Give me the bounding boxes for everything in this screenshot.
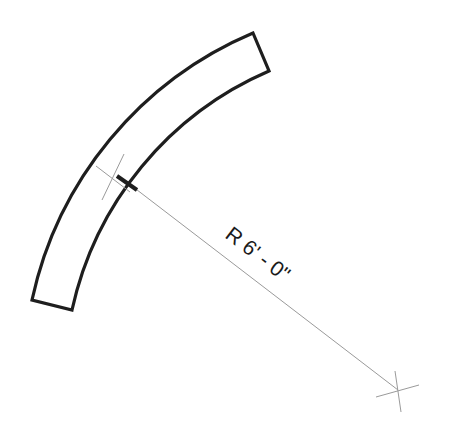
arc-midpoint-cross-icon <box>96 154 130 200</box>
radius-leader-line <box>128 183 398 390</box>
curved-wall-outline[interactable] <box>32 33 269 310</box>
center-point-cross-icon[interactable] <box>376 371 419 412</box>
drawing-canvas: R 6' - 0" <box>0 0 453 448</box>
radius-dimension-label[interactable]: R 6' - 0" <box>222 222 295 286</box>
